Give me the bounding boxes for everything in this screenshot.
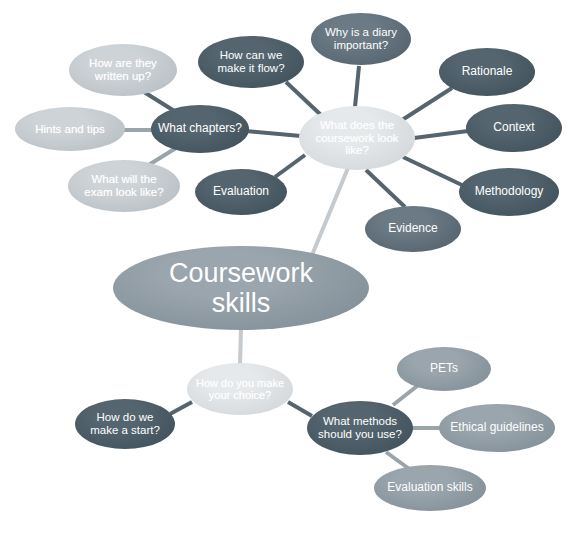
node-hints-tips[interactable]: Hints and tips	[15, 107, 125, 151]
node-label: PETs	[403, 362, 485, 375]
node-label: How do you makeyour choice?	[193, 377, 287, 402]
node-pets[interactable]: PETs	[397, 347, 491, 391]
node-context[interactable]: Context	[466, 104, 562, 152]
node-label: What methodsshould you use?	[313, 415, 407, 441]
node-methodology[interactable]: Methodology	[459, 168, 559, 216]
edge-make-your-choice-to-what-methods	[288, 402, 312, 416]
node-diary-important[interactable]: Why is a diaryimportant?	[311, 13, 411, 65]
node-label: Context	[472, 121, 556, 134]
node-evidence[interactable]: Evidence	[365, 206, 461, 252]
edge-root-to-coursework-look	[310, 168, 348, 260]
node-label: How do wemake a start?	[81, 411, 169, 437]
node-what-methods[interactable]: What methodsshould you use?	[307, 401, 413, 455]
node-ethical-guidelines[interactable]: Ethical guidelines	[439, 404, 555, 452]
node-what-chapters[interactable]: What chapters?	[151, 105, 249, 153]
node-label: Rationale	[445, 65, 529, 78]
node-coursework-look[interactable]: What does thecoursework looklike?	[299, 106, 415, 170]
node-root[interactable]: Courseworkskills	[113, 246, 369, 330]
node-how-flow[interactable]: How can wemake it flow?	[198, 36, 304, 88]
node-label: Ethical guidelines	[445, 421, 549, 434]
node-label: Methodology	[465, 185, 553, 198]
node-label: What chapters?	[157, 122, 243, 135]
node-label: Evidence	[371, 222, 455, 235]
node-label: Evaluation	[201, 185, 281, 198]
node-rationale[interactable]: Rationale	[439, 48, 535, 96]
node-label: Evaluation skills	[380, 481, 480, 494]
edge-coursework-look-to-rationale	[399, 88, 452, 122]
node-exam-look-like[interactable]: What will theexam look like?	[68, 160, 180, 212]
node-label: What will theexam look like?	[74, 173, 174, 199]
edge-coursework-look-to-context	[414, 131, 468, 138]
node-make-your-choice[interactable]: How do you makeyour choice?	[187, 363, 293, 415]
mind-map-diagram: CourseworkskillsWhat does thecoursework …	[0, 0, 587, 536]
node-label: Why is a diaryimportant?	[317, 26, 405, 52]
node-label: How can wemake it flow?	[204, 49, 298, 75]
edge-coursework-look-to-evaluation	[275, 155, 305, 177]
node-label: Hints and tips	[21, 123, 119, 136]
node-label: Courseworkskills	[119, 258, 363, 318]
node-evaluation-skills[interactable]: Evaluation skills	[374, 465, 486, 511]
edge-coursework-look-to-evidence	[366, 170, 405, 207]
node-evaluation[interactable]: Evaluation	[195, 169, 287, 215]
edge-make-your-choice-to-how-make-start	[170, 402, 192, 414]
edge-coursework-look-to-what-chapters	[246, 131, 301, 136]
edge-coursework-look-to-how-flow	[286, 82, 322, 116]
edge-coursework-look-to-diary-important	[355, 66, 359, 107]
node-label: What does thecoursework looklike?	[305, 119, 409, 158]
node-how-make-start[interactable]: How do wemake a start?	[75, 399, 175, 449]
edge-root-to-make-your-choice	[240, 328, 241, 365]
node-how-written-up[interactable]: How are theywritten up?	[69, 44, 177, 96]
edge-coursework-look-to-methodology	[403, 157, 464, 186]
node-label: How are theywritten up?	[75, 57, 171, 83]
